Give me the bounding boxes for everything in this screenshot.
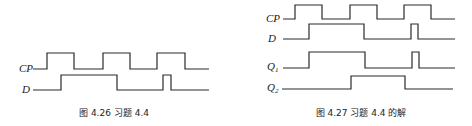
timing-diagrams: CP D 图 4.26 习题 4.4 CP D Q1 Q2 图 4.27 习题 …: [0, 0, 472, 126]
label-d: D: [21, 83, 30, 95]
label-d: D: [267, 32, 276, 44]
label-q2-main: Q: [267, 81, 275, 93]
label-q1-main: Q: [267, 60, 275, 72]
caption-figure-4-26: 图 4.26 习题 4.4: [79, 108, 149, 118]
waveform-q1: [283, 52, 455, 68]
label-q1: Q1: [267, 60, 278, 74]
waveform-cp: [283, 5, 455, 19]
label-q2-sub: 2: [275, 87, 279, 95]
figure-4-26: CP D 图 4.26 习题 4.4: [19, 53, 209, 118]
waveform-d: [283, 24, 455, 39]
waveform-cp: [33, 53, 209, 69]
label-cp: CP: [19, 62, 33, 74]
label-q2: Q2: [267, 81, 279, 95]
label-cp: CP: [266, 12, 280, 24]
label-q1-sub: 1: [275, 66, 279, 74]
caption-figure-4-27: 图 4.27 习题 4.4 的解: [316, 107, 407, 118]
waveform-d: [33, 75, 209, 90]
waveform-q2: [282, 76, 453, 89]
figure-4-27: CP D Q1 Q2 图 4.27 习题 4.4 的解: [266, 5, 455, 118]
